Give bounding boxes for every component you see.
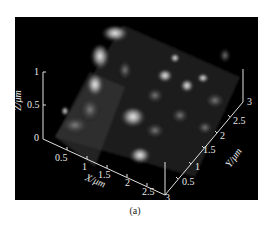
x-tick-1: 1 xyxy=(82,162,87,172)
z-tick-0.5: 0.5 xyxy=(27,100,40,110)
x-tick-2.5: 2.5 xyxy=(142,187,155,197)
z-axis-title: Z/μm xyxy=(15,90,23,111)
y-tick-0.5: 0.5 xyxy=(182,177,195,187)
y-tick-1.5: 1.5 xyxy=(203,145,216,155)
afm-3d-surface-plot: 1 0.5 0 Z/μm 0.5 1 1.5 2 2.5 3 X/μm 0.5 … xyxy=(15,17,258,200)
surface-render xyxy=(15,17,258,200)
figure-caption: (a) xyxy=(0,205,270,216)
y-tick-3: 3 xyxy=(247,97,252,107)
x-tick-3: 3 xyxy=(165,193,170,200)
x-tick-0.5: 0.5 xyxy=(55,153,68,163)
y-tick-2.5: 2.5 xyxy=(233,116,246,126)
z-tick-0: 0 xyxy=(34,133,39,143)
y-tick-2: 2 xyxy=(220,131,225,141)
y-tick-1: 1 xyxy=(195,162,200,172)
z-tick-1: 1 xyxy=(34,67,39,77)
x-tick-2: 2 xyxy=(125,178,130,188)
